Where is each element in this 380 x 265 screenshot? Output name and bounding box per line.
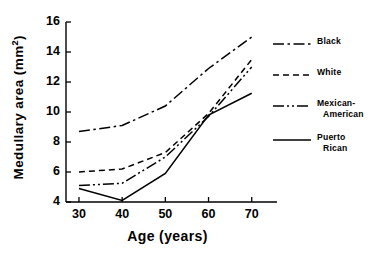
x-axis-tick-label: 60 — [196, 207, 222, 221]
chart-legend: BlackWhiteMexican-AmericanPuertoRican — [272, 36, 380, 166]
y-axis-tick-label: 4 — [30, 194, 60, 208]
y-axis-tick-label: 10 — [30, 104, 60, 118]
legend-label-line2: American — [317, 109, 364, 120]
legend-label-line1: Black — [317, 36, 341, 46]
legend-label: PuertoRican — [312, 132, 347, 153]
legend-item-mexican-american[interactable]: Mexican-American — [272, 98, 380, 119]
y-axis-tick-label: 12 — [30, 74, 60, 88]
legend-label: Mexican-American — [312, 98, 364, 119]
x-axis-tick-label: 50 — [152, 207, 178, 221]
legend-label-line2: Rican — [317, 143, 347, 154]
legend-item-white[interactable]: White — [272, 67, 380, 85]
legend-line-sample — [272, 100, 312, 112]
legend-label-line1: Mexican- — [317, 98, 355, 108]
chart-figure: Medullary area (mm2) Age (years) BlackWh… — [0, 0, 380, 265]
legend-line-sample — [272, 69, 312, 81]
legend-item-black[interactable]: Black — [272, 36, 380, 54]
series-line-black — [79, 37, 252, 132]
legend-item-puerto-rican[interactable]: PuertoRican — [272, 132, 380, 153]
x-axis-tick-label: 70 — [239, 207, 265, 221]
y-axis-tick-label: 14 — [30, 44, 60, 58]
legend-label-line1: Puerto — [317, 132, 345, 142]
legend-line-sample — [272, 38, 312, 50]
y-axis-tick-label: 16 — [30, 14, 60, 28]
series-line-white — [79, 60, 252, 173]
y-axis-tick-label: 8 — [30, 134, 60, 148]
x-axis-title: Age (years) — [60, 228, 275, 244]
legend-line-sample — [272, 134, 312, 146]
series-line-mexican-american — [79, 67, 252, 186]
x-axis-tick-label: 30 — [66, 207, 92, 221]
legend-label: Black — [312, 36, 341, 47]
x-axis-tick-label: 40 — [109, 207, 135, 221]
y-axis-tick-label: 6 — [30, 164, 60, 178]
legend-label: White — [312, 67, 341, 78]
legend-label-line1: White — [317, 67, 341, 77]
